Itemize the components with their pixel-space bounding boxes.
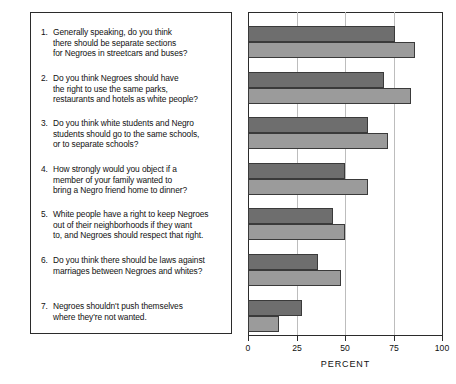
bar-q5-light	[248, 224, 345, 240]
question-text-7: Negroes shouldn't push themselveswhere t…	[53, 301, 229, 322]
question-4-line-2: member of your family wanted to	[53, 175, 229, 186]
bar-q1-light	[248, 42, 415, 58]
x-tick-50	[345, 336, 346, 341]
x-tick-label-0: 0	[233, 343, 263, 353]
question-2-line-1: Do you think Negroes should have	[53, 73, 229, 84]
question-1-line-1: Generally speaking, do you think	[53, 27, 229, 38]
x-tick-25	[297, 336, 298, 341]
x-tick-label-75: 75	[379, 343, 409, 353]
question-item-3: 3.Do you think white students and Negros…	[41, 118, 229, 150]
bar-q6-dark	[248, 254, 318, 270]
bar-q6-light	[248, 270, 341, 286]
question-7-line-1: Negroes shouldn't push themselves	[53, 301, 229, 312]
bar-q2-dark	[248, 72, 384, 88]
question-number-3: 3.	[41, 118, 53, 129]
bar-q1-dark	[248, 26, 395, 42]
question-4-line-3: bring a Negro friend home to dinner?	[53, 185, 229, 196]
question-4-line-1: How strongly would you object if a	[53, 164, 229, 175]
bar-q3-dark	[248, 117, 368, 133]
x-tick-label-50: 50	[330, 343, 360, 353]
bar-q7-dark	[248, 300, 302, 316]
question-3-line-2: students should go to the same schools,	[53, 129, 229, 140]
question-number-5: 5.	[41, 209, 53, 220]
x-tick-75	[394, 336, 395, 341]
question-5-line-3: to, and Negroes should respect that righ…	[53, 230, 229, 241]
x-tick-label-100: 100	[427, 343, 456, 353]
question-item-2: 2.Do you think Negroes should havethe ri…	[41, 73, 229, 105]
question-list-panel: 1.Generally speaking, do you thinkthere …	[30, 12, 232, 334]
question-7-line-2: where they're not wanted.	[53, 312, 229, 323]
question-number-4: 4.	[41, 164, 53, 175]
question-1-line-2: there should be separate sections	[53, 38, 229, 49]
question-number-2: 2.	[41, 73, 53, 84]
question-item-4: 4.How strongly would you object if amemb…	[41, 164, 229, 196]
bar-q4-light	[248, 179, 368, 195]
gridline-75	[394, 12, 395, 335]
question-number-6: 6.	[41, 255, 53, 266]
gridline-50	[345, 12, 346, 335]
bar-q3-light	[248, 133, 388, 149]
question-item-1: 1.Generally speaking, do you thinkthere …	[41, 27, 229, 59]
question-item-6: 6.Do you think there should be laws agai…	[41, 255, 229, 276]
bar-q2-light	[248, 88, 411, 104]
bar-q4-dark	[248, 163, 345, 179]
question-3-line-3: or to separate schools?	[53, 139, 229, 150]
question-5-line-1: White people have a right to keep Negroe…	[53, 209, 229, 220]
question-text-3: Do you think white students and Negrostu…	[53, 118, 229, 150]
question-number-7: 7.	[41, 301, 53, 312]
question-1-line-3: for Negroes in streetcars and buses?	[53, 48, 229, 59]
question-number-1: 1.	[41, 27, 53, 38]
question-item-5: 5.White people have a right to keep Negr…	[41, 209, 229, 241]
x-axis-title: PERCENT	[248, 359, 443, 369]
question-6-line-2: marriages between Negroes and whites?	[53, 266, 229, 277]
survey-bar-chart-figure: 1.Generally speaking, do you thinkthere …	[0, 0, 456, 384]
question-text-6: Do you think there should be laws agains…	[53, 255, 229, 276]
question-text-4: How strongly would you object if amember…	[53, 164, 229, 196]
x-tick-label-25: 25	[282, 343, 312, 353]
question-text-5: White people have a right to keep Negroe…	[53, 209, 229, 241]
question-3-line-1: Do you think white students and Negro	[53, 118, 229, 129]
question-5-line-2: out of their neighborhoods if they want	[53, 220, 229, 231]
x-tick-0	[248, 336, 249, 341]
bar-q7-light	[248, 316, 279, 332]
plot-frame-right	[442, 12, 443, 336]
question-text-1: Generally speaking, do you thinkthere sh…	[53, 27, 229, 59]
question-6-line-1: Do you think there should be laws agains…	[53, 255, 229, 266]
question-2-line-3: restaurants and hotels as white people?	[53, 94, 229, 105]
question-2-line-2: the right to use the same parks,	[53, 84, 229, 95]
x-tick-100	[442, 336, 443, 341]
bar-q5-dark	[248, 208, 333, 224]
question-item-7: 7.Negroes shouldn't push themselveswhere…	[41, 301, 229, 322]
question-text-2: Do you think Negroes should havethe righ…	[53, 73, 229, 105]
